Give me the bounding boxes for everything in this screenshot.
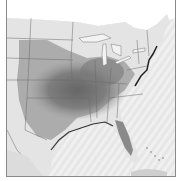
us-shaded-map — [7, 0, 175, 176]
lake-michigan — [102, 44, 107, 66]
map-frame — [6, 0, 176, 177]
